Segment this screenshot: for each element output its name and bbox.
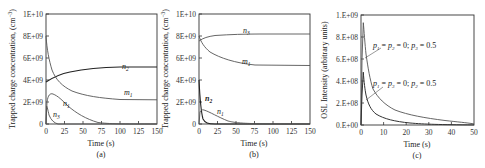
y-tick-label: 0 [39,120,43,129]
label-n1: n1 [217,107,224,117]
panel-a: 0 2E+09 4E+09 6E+09 8E+09 1E+10 0 25 50 … [7,9,163,159]
panel-c-caption: (c) [413,151,422,160]
panel-c: 0.E+00 2.E+08 4.E+08 6.E+08 8.E+08 1.E+0… [320,11,478,160]
y-tick-label: 6E+09 [176,54,196,63]
label-n3: n3 [243,26,250,36]
x-tick-label: 25 [61,127,69,136]
x-tick-label: 50 [470,128,478,137]
x-tick-label: 75 [251,127,259,136]
x-tick-label: 30 [425,128,433,137]
y-tick-label: 1E+10 [23,10,43,19]
x-tick-label: 10 [380,128,388,137]
panel-b-x-axis-label: Time (s) [240,139,267,148]
y-tick-label: 4E+09 [176,76,196,85]
y-tick-label: 6E+09 [23,54,43,63]
y-tick-label: 6.E+08 [336,55,358,64]
x-tick-label: 100 [114,127,126,136]
label-m1: m1 [124,88,133,98]
panel-c-y-axis-label: OSL Intensity (arbitrary units) [320,21,329,119]
curve-p3-0.5 [361,23,474,125]
x-tick-label: 50 [79,127,87,136]
panel-a-y-axis-label: Trapped charge concentration, (cm−3) [7,9,17,129]
panel-b-plot-frame [199,14,310,124]
y-tick-label: 1E+10 [176,10,196,19]
x-tick-label: 20 [402,128,410,137]
annotation-lower: p1 = p3 = 0; p2 = 0.5 [372,79,436,89]
x-tick-label: 150 [304,127,316,136]
panel-b-y-axis-label: Trapped charge concentration, (cm−3) [160,9,170,129]
label-n1: n1 [63,99,70,109]
label-m1: m1 [242,57,251,67]
panel-b-x-tick-labels: 0 25 50 75 100 125 150 [197,127,316,136]
x-tick-label: 50 [232,127,240,136]
y-tick-label: 8E+09 [23,32,43,41]
curve-n2 [46,67,157,82]
curve-m1 [199,36,310,66]
panel-a-y-tick-labels: 0 2E+09 4E+09 6E+09 8E+09 1E+10 [23,10,43,129]
annotation-leader-lower [366,87,383,100]
y-tick-label: 8.E+08 [336,33,358,42]
panel-c-x-axis-label: Time (s) [403,140,430,149]
annotation-upper: p1 = p2 = 0; p3 = 0.5 [372,41,436,51]
panel-c-x-tick-labels: 0 10 20 30 40 50 [359,128,478,137]
y-tick-label: 4E+09 [23,76,43,85]
x-tick-label: 40 [448,128,456,137]
x-tick-label: 125 [286,127,298,136]
label-n2: n2 [205,94,212,104]
curve-n3 [199,34,310,41]
x-tick-label: 0 [359,128,363,137]
label-n3: n3 [53,110,60,120]
figure: 0 2E+09 4E+09 6E+09 8E+09 1E+10 0 25 50 … [0,0,485,168]
y-tick-label: 0.E+00 [336,121,358,130]
panel-a-x-tick-labels: 0 25 50 75 100 125 150 [44,127,163,136]
y-tick-label: 0 [192,120,196,129]
x-tick-label: 125 [133,127,145,136]
panel-a-caption: (a) [97,150,106,159]
panel-c-plot-frame [361,15,474,125]
y-tick-label: 1.E+09 [336,11,358,20]
panel-c-y-tick-labels: 0.E+00 2.E+08 4.E+08 6.E+08 8.E+08 1.E+0… [336,11,358,130]
y-tick-label: 4.E+08 [336,77,358,86]
label-n2: n2 [122,62,129,72]
x-tick-label: 0 [44,127,48,136]
panel-b-y-tick-labels: 0 2E+09 4E+09 6E+09 8E+09 1E+10 [176,10,196,129]
x-tick-label: 75 [98,127,106,136]
y-tick-label: 2E+09 [23,98,43,107]
x-tick-label: 100 [267,127,279,136]
curve-n2 [199,80,310,124]
y-tick-label: 2.E+08 [336,99,358,108]
panel-b: 0 2E+09 4E+09 6E+09 8E+09 1E+10 0 25 50 … [160,9,316,159]
y-tick-label: 8E+09 [176,32,196,41]
x-tick-label: 25 [214,127,222,136]
panel-a-x-axis-label: Time (s) [87,139,114,148]
x-tick-label: 0 [197,127,201,136]
panel-b-caption: (b) [249,150,259,159]
y-tick-label: 2E+09 [176,98,196,107]
